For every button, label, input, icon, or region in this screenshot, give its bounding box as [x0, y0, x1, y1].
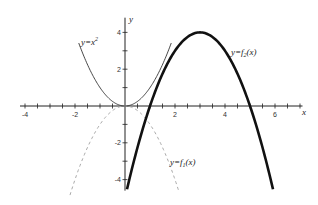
x-tick-label: 2 — [173, 111, 177, 118]
x-tick-label: 4 — [223, 111, 227, 118]
x-axis-label: x — [301, 107, 306, 117]
axes: -4-224642-2-4 — [20, 18, 303, 191]
parabola-label: y=x2 — [80, 36, 98, 47]
y-tick-label: -2 — [115, 139, 121, 146]
y-tick-label: -4 — [115, 176, 121, 183]
curve-f1 — [70, 106, 179, 195]
f2-label: y=f2(x) — [230, 47, 257, 58]
f1-label: y=f1(x) — [169, 157, 196, 168]
x-tick-label: 6 — [273, 111, 277, 118]
y-tick-label: 2 — [117, 66, 121, 73]
y-axis-label: y — [128, 14, 133, 24]
y-tick-label: 4 — [117, 29, 121, 36]
x-tick-label: -4 — [22, 111, 28, 118]
function-plot: -4-224642-2-4 y x y=x2 y=f2(x) y=f1(x) — [0, 0, 318, 205]
x-tick-label: -2 — [72, 111, 78, 118]
